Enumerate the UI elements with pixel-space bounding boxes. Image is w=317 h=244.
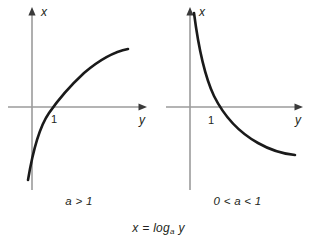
- horizontal-axis-label: y: [294, 113, 302, 127]
- vertical-axis-label: x: [198, 5, 206, 19]
- x-tick-label-1: 1: [208, 114, 214, 126]
- logarithm-graphs-figure: x y 1 x y 1 a > 1 0 < a < 1 x = loga y: [0, 0, 317, 244]
- chart-panel-a-greater-than-1: x y 1: [0, 0, 158, 200]
- vertical-axis-arrowhead: [186, 7, 193, 16]
- caption-left-condition: a > 1: [0, 195, 158, 207]
- log-curve-increasing: [28, 49, 128, 180]
- x-tick-label-1: 1: [51, 113, 57, 125]
- log-curve-decreasing: [194, 13, 295, 155]
- vertical-axis-label: x: [40, 5, 48, 19]
- chart-panel-a-between-0-and-1: x y 1: [158, 0, 317, 200]
- vertical-axis-arrowhead: [28, 7, 35, 16]
- formula-lead: x = log: [132, 221, 170, 235]
- horizontal-axis-arrowhead: [139, 103, 148, 110]
- horizontal-axis-arrowhead: [295, 103, 304, 110]
- horizontal-axis-label: y: [138, 113, 146, 127]
- caption-right-condition: 0 < a < 1: [158, 195, 317, 207]
- formula-tail: y: [175, 221, 185, 235]
- caption-main-formula: x = loga y: [0, 221, 317, 236]
